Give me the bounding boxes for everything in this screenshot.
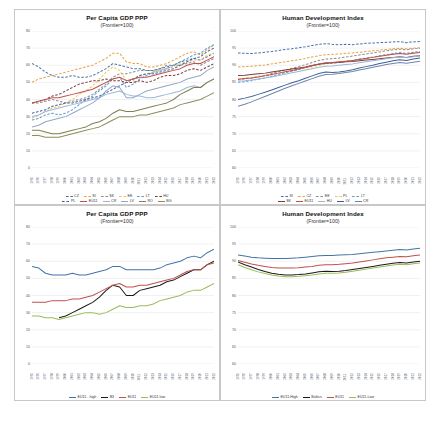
x-tick-label: 2000 (64, 177, 67, 184)
x-tick-label: 2011 (344, 178, 347, 184)
legend-item[interactable]: EE (316, 194, 329, 198)
legend-swatch (335, 196, 342, 197)
y-tick-label: 0 (28, 166, 30, 170)
x-tick-label: 2007 (317, 177, 320, 184)
x-tick-label: 2017 (385, 177, 388, 184)
x-tick-label: 2016 (172, 177, 175, 184)
y-tick-label: 50 (26, 80, 30, 84)
y-tick-label: 40 (26, 294, 30, 298)
legend-item[interactable]: EU11 (296, 199, 313, 203)
legend-item[interactable]: LV (337, 199, 350, 203)
legend-label: HU (163, 194, 168, 198)
legend-item[interactable]: EE (119, 194, 132, 198)
legend-swatch (318, 201, 325, 202)
legend-item[interactable]: RO (139, 199, 153, 203)
legend-item[interactable]: HU (318, 199, 332, 203)
panel-top-left: Per Capita GDP PPP (Frontier=100) 010203… (14, 9, 220, 205)
plot-canvas (32, 227, 214, 364)
x-tick-label: 2009 (331, 373, 334, 380)
y-axis: 01020304050607080 (15, 227, 31, 364)
legend-item[interactable]: CR (103, 199, 117, 203)
legend-item[interactable]: SK (101, 194, 114, 198)
caption-line-2 (16, 408, 316, 412)
legend: EU11 - highB3EU11EU11 low (21, 395, 213, 399)
y-tick-label: 70 (26, 46, 30, 50)
legend-item[interactable]: CZ (298, 194, 311, 198)
y-tick-label: 75 (232, 115, 236, 119)
legend-swatch (119, 397, 126, 398)
legend-swatch (303, 397, 310, 398)
x-tick-label: 2007 (317, 373, 320, 380)
panel-bottom-left: Per Capita GDP PPP (Frontier=100) 010203… (14, 205, 220, 401)
x-tick-label: 1996 (243, 177, 246, 184)
legend-item[interactable]: HU (155, 194, 169, 198)
y-tick-label: 60 (26, 63, 30, 67)
panel-subtitle: (Frontier=100) (221, 219, 425, 225)
legend-item[interactable]: CR (355, 199, 369, 203)
legend-item[interactable]: PL (62, 199, 75, 203)
x-tick-label: 1997 (44, 373, 47, 380)
legend-item[interactable]: SK (278, 199, 291, 203)
legend-item[interactable]: LT (137, 194, 149, 198)
y-tick-label: 65 (232, 149, 236, 153)
y-tick-label: 40 (26, 98, 30, 102)
x-tick-label: 2019 (398, 177, 401, 184)
x-tick-label: 1997 (250, 177, 253, 184)
legend-row: EU11 - highB3EU11EU11 low (69, 395, 165, 399)
legend-item[interactable]: LV (121, 199, 134, 203)
x-tick-label: 1999 (263, 373, 266, 380)
legend-item[interactable]: EU11-High (272, 395, 298, 399)
x-tick-label: 2009 (125, 373, 128, 380)
x-tick-label: 2008 (324, 177, 327, 184)
legend-item[interactable]: B3 (101, 395, 114, 399)
legend-item[interactable]: EU11 (327, 395, 344, 399)
legend-item[interactable]: BG (158, 199, 172, 203)
x-tick-label: 2006 (105, 373, 108, 380)
legend-swatch (296, 201, 303, 202)
legend-row: EU11-HighBalticsEU11EU11-Low (272, 395, 374, 399)
y-tick-label: 70 (232, 328, 236, 332)
legend-item[interactable]: LT (352, 194, 364, 198)
legend-item[interactable]: EU11 - high (69, 395, 96, 399)
legend-label: LT (361, 194, 365, 198)
x-tick-label: 2014 (159, 177, 162, 184)
legend-item[interactable]: CZ (66, 194, 79, 198)
plot-canvas (238, 227, 420, 364)
legend-item[interactable]: Baltics (303, 395, 322, 399)
legend-item[interactable]: PL (335, 194, 348, 198)
panel-title: Per Capita GDP PPP (15, 211, 219, 218)
x-tick-label: 2013 (152, 373, 155, 380)
x-tick-label: 2000 (64, 373, 67, 380)
x-tick-label: 2020 (199, 373, 202, 380)
plot-area-wrapper: 01020304050607080 1995199619971998199920… (15, 225, 219, 400)
y-tick-label: 0 (28, 362, 30, 366)
legend-swatch (137, 196, 144, 197)
legend-label: EU11 - high (78, 395, 97, 399)
legend-swatch (103, 201, 110, 202)
legend-label: EU11 (89, 199, 98, 203)
legend-swatch (121, 201, 128, 202)
legend-label: HU (327, 199, 332, 203)
plot-area-wrapper: 6065707580859095100 19951996199719981999… (221, 29, 425, 204)
x-tick-label: 1996 (243, 373, 246, 380)
legend-swatch (337, 201, 344, 202)
y-tick-label: 85 (232, 80, 236, 84)
x-tick-label: 1999 (263, 177, 266, 184)
legend: EU11-HighBalticsEU11EU11-Low (227, 395, 419, 399)
x-tick-label: 2019 (398, 373, 401, 380)
x-tick-label: 2003 (290, 373, 293, 380)
x-tick-label: 2001 (277, 177, 280, 184)
legend-item[interactable]: EU11-Low (349, 395, 374, 399)
legend-item[interactable]: EU11 low (141, 395, 165, 399)
legend-item[interactable]: SI (84, 194, 96, 198)
x-tick-label: 2011 (344, 374, 347, 380)
x-tick-label: 2000 (270, 373, 273, 380)
legend-swatch (298, 196, 305, 197)
legend-item[interactable]: EU11 (80, 199, 97, 203)
chart-grid: Per Capita GDP PPP (Frontier=100) 010203… (14, 9, 426, 401)
x-tick-label: 2004 (297, 177, 300, 184)
panel-title: Human Development Index (221, 15, 425, 22)
legend-item[interactable]: SI (281, 194, 293, 198)
x-tick-label: 2009 (331, 177, 334, 184)
legend-item[interactable]: EU11 (119, 395, 136, 399)
